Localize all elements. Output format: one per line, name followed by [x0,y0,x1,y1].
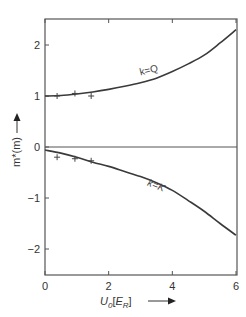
x-axis-label: U0[ER] [100,295,132,310]
y-tick-label: −2 [27,243,40,255]
x-axis-arrow-icon [168,298,176,305]
x-tick-label: 0 [42,280,48,292]
curve-kk [45,150,236,235]
plus-marker [88,93,94,99]
plus-marker [54,154,60,160]
plus-marker [54,93,60,99]
data-series [45,30,236,236]
curve-kq [45,30,236,96]
y-tick-label: −1 [27,192,40,204]
curve-label-k-equals-q: k=Q [138,62,159,77]
plus-marker [72,90,78,96]
axis-ticks: −2−10120246 [27,19,239,292]
y-tick-label: 2 [34,39,40,51]
plot-frame [45,19,237,275]
y-tick-label: 0 [34,141,40,153]
y-tick-label: 1 [34,90,40,102]
y-axis-arrow-icon [14,113,21,121]
x-tick-label: 6 [233,280,239,292]
chart-canvas: −2−10120246 k=Qk=Km*(m)U0[ER] [0,0,246,317]
x-tick-label: 4 [169,280,175,292]
x-tick-label: 2 [106,280,112,292]
curve-label-k-equals-k: k=K [146,177,168,194]
y-axis-label: m*(m) [10,137,22,167]
